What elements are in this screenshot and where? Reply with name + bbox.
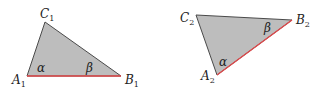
triangle-2-body — [196, 15, 292, 75]
angle-beta-2: β — [263, 21, 271, 35]
vertex-label-b2: B2 — [295, 13, 310, 29]
triangle-1: C1 A1 B1 α β — [11, 7, 139, 89]
vertex-label-a2: A2 — [200, 69, 215, 85]
congruent-triangles-diagram: C1 A1 B1 α β C2 B2 A2 α β — [0, 0, 318, 90]
vertex-label-c1: C1 — [40, 7, 54, 23]
vertex-label-b1: B1 — [124, 73, 139, 89]
angle-alpha-2: α — [219, 55, 227, 69]
vertex-label-c2: C2 — [180, 11, 194, 27]
triangle-2: C2 B2 A2 α β — [180, 11, 310, 85]
angle-alpha-1: α — [37, 61, 45, 75]
angle-beta-1: β — [85, 61, 93, 75]
vertex-label-a1: A1 — [11, 73, 26, 89]
